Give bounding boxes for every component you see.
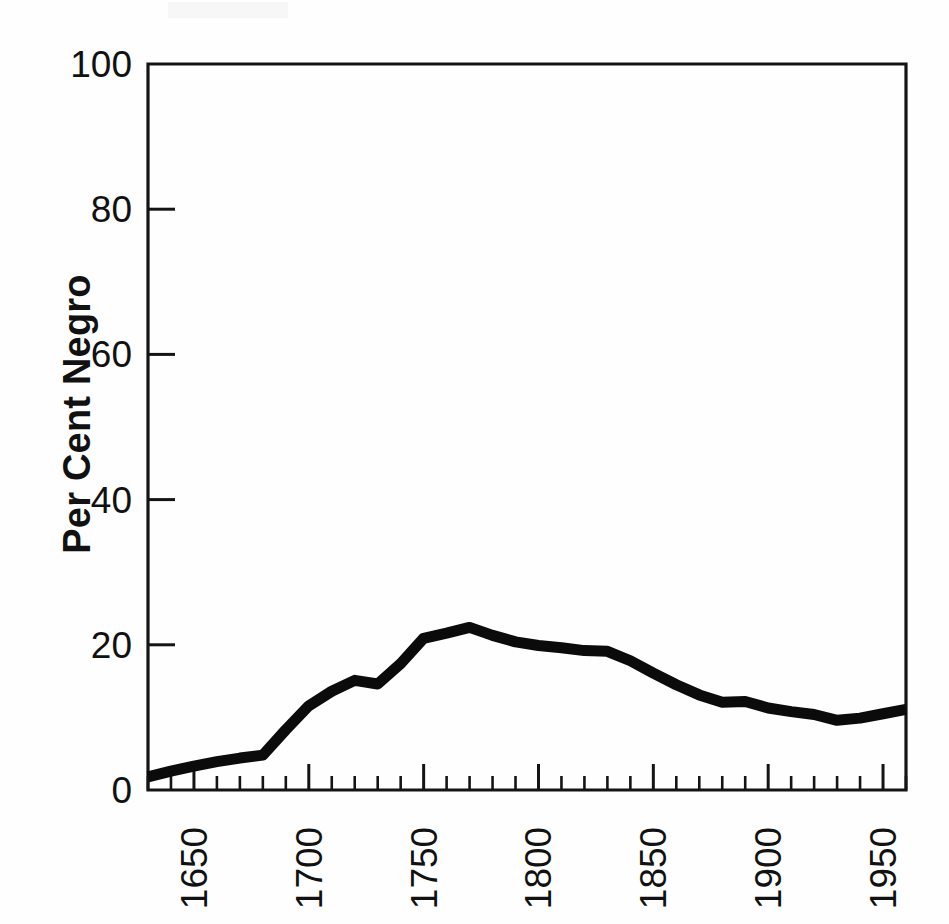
x-tick-label-1700: 1700 [289, 808, 331, 924]
x-tick-label-1750: 1750 [404, 808, 446, 924]
y-tick-label-20: 20 [91, 625, 132, 666]
x-tick-label-1850: 1850 [633, 808, 675, 924]
x-tick-label-1950: 1950 [863, 808, 905, 924]
y-axis-title-wrap: Per Cent Negro [56, 214, 104, 614]
x-tick-label-1800: 1800 [518, 808, 560, 924]
plot-frame [148, 64, 906, 790]
x-tick-label-1900: 1900 [748, 808, 790, 924]
y-axis-title: Per Cent Negro [56, 274, 98, 553]
y-axis-ticks [148, 209, 175, 645]
y-tick-label-0: 0 [111, 770, 132, 811]
x-axis-ticks [148, 764, 906, 790]
y-tick-label-100: 100 [70, 44, 132, 85]
x-tick-label-1650: 1650 [174, 808, 216, 924]
data-series-line [148, 627, 906, 777]
line-chart [0, 0, 949, 924]
figure-canvas: 100 80 60 40 20 0 Per Cent Negro 1650170… [0, 0, 949, 924]
